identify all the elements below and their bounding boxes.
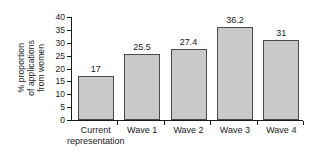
- y-tick-mark: [67, 43, 72, 44]
- y-axis-title-line-3: from women: [36, 44, 46, 92]
- y-tick-label: 35: [56, 25, 65, 34]
- x-tick-mark: [210, 121, 211, 125]
- y-axis-title-line-2: of applications: [26, 40, 36, 96]
- bar: [171, 49, 207, 120]
- y-tick-mark: [67, 30, 72, 31]
- bar-value-label: 27.4: [180, 37, 198, 47]
- x-category-label-line: Current: [81, 125, 111, 135]
- y-tick-label: 20: [56, 64, 65, 73]
- y-tick-label: 30: [56, 38, 65, 47]
- x-tick-mark: [257, 121, 258, 125]
- y-axis-title-line-1: % proportion: [16, 43, 26, 92]
- y-tick-label: 25: [56, 51, 65, 60]
- plot-area: 0510152025303540 1725.527.436.231 Curren…: [71, 17, 303, 120]
- y-tick-mark: [67, 120, 72, 121]
- bar-value-label: 17: [91, 64, 101, 74]
- x-category-label-line: Wave 3: [220, 125, 250, 135]
- x-category-label: Wave 3: [220, 125, 250, 136]
- bar-value-label: 25.5: [133, 42, 151, 52]
- y-tick-label: 0: [60, 116, 65, 125]
- bar: [217, 27, 253, 120]
- y-tick-label: 40: [56, 13, 65, 22]
- y-tick-mark: [67, 107, 72, 108]
- x-tick-mark: [303, 121, 304, 125]
- x-category-label-line: Wave 2: [173, 125, 203, 135]
- y-tick-label: 15: [56, 77, 65, 86]
- bar: [124, 54, 160, 120]
- x-category-label: Wave 2: [173, 125, 203, 136]
- y-tick-mark: [67, 56, 72, 57]
- y-tick-mark: [67, 69, 72, 70]
- bar-chart-figure: % proportion of applications from women …: [0, 0, 317, 154]
- x-axis-line: [71, 120, 303, 121]
- x-tick-mark: [164, 121, 165, 125]
- y-tick-mark: [67, 81, 72, 82]
- y-tick-label: 5: [60, 103, 65, 112]
- x-category-label-line: Wave 4: [266, 125, 296, 135]
- x-category-label: Wave 4: [266, 125, 296, 136]
- bar-value-label: 31: [276, 28, 286, 38]
- bar: [263, 40, 299, 120]
- y-tick-label: 10: [56, 90, 65, 99]
- bar-value-label: 36.2: [226, 15, 244, 25]
- x-category-label-line: Wave 1: [127, 125, 157, 135]
- x-category-label-line: representation: [67, 136, 125, 147]
- x-category-label: Wave 1: [127, 125, 157, 136]
- bar: [78, 76, 114, 120]
- y-tick-mark: [67, 17, 72, 18]
- y-axis-title: % proportion of applications from women: [8, 14, 54, 122]
- y-tick-mark: [67, 94, 72, 95]
- x-category-label: Currentrepresentation: [67, 125, 125, 147]
